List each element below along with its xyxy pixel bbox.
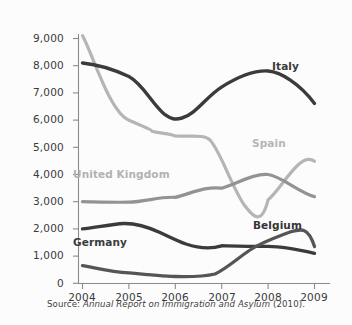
y-tick-label-4000: 4,000 (16, 168, 64, 180)
x-axis-ticks (83, 284, 315, 290)
series-label-germany: Germany (73, 236, 127, 248)
y-tick-label-6000: 6,000 (16, 113, 64, 125)
source-year: (2010). (273, 299, 305, 309)
series-label-spain: Spain (252, 137, 286, 149)
source-title: Annual Report on Immigration and Asylum (83, 299, 270, 309)
y-tick-label-2000: 2,000 (16, 222, 64, 234)
y-tick-label-1000: 1,000 (16, 249, 64, 261)
source-prefix: Source: (47, 299, 80, 309)
y-tick-label-5000: 5,000 (16, 141, 64, 153)
y-tick-label-8000: 8,000 (16, 59, 64, 71)
series-label-belgium: Belgium (253, 219, 302, 231)
y-tick-label-3000: 3,000 (16, 195, 64, 207)
y-tick-label-9000: 9,000 (16, 32, 64, 44)
y-tick-label-0: 0 (16, 277, 64, 289)
series-label-united-kingdom: United Kingdom (73, 168, 170, 180)
y-tick-label-7000: 7,000 (16, 86, 64, 98)
series-label-italy: Italy (272, 60, 299, 72)
immigration-asylum-line-chart: 9,000 8,000 7,000 6,000 5,000 4,000 3,00… (0, 0, 352, 325)
source-note: Source: Annual Report on Immigration and… (0, 299, 352, 309)
